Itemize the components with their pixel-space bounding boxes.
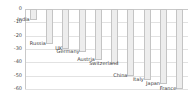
bar	[79, 9, 86, 52]
y-tick-label: 0	[0, 6, 22, 11]
bar	[95, 9, 102, 60]
bar	[160, 9, 167, 84]
bar	[144, 9, 151, 80]
bar	[62, 9, 69, 49]
bar-label: India	[8, 17, 30, 22]
bar-chart: 0-10-20-30-40-50-60 IndiaRussiaUKGermany…	[0, 0, 192, 106]
bar	[46, 9, 53, 44]
bar-label: Germany	[57, 49, 79, 54]
bar-label: France	[154, 86, 176, 91]
y-tick-label: -20	[0, 33, 22, 38]
bar-label: Switzerland	[89, 61, 111, 66]
bar-label: Russia	[24, 41, 46, 46]
bar	[111, 9, 118, 64]
bar-label: Japan	[138, 81, 160, 86]
y-tick-label: -30	[0, 46, 22, 51]
bar	[127, 9, 134, 76]
bar	[176, 9, 183, 89]
bar	[30, 9, 37, 20]
y-tick-label: -60	[0, 86, 22, 91]
y-tick-label: -40	[0, 59, 22, 64]
y-tick-label: -50	[0, 73, 22, 78]
